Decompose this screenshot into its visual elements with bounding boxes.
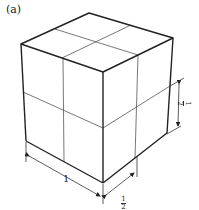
dimension-label-half-bottom: 1 2: [121, 186, 126, 210]
fraction-numerator: 1: [121, 196, 125, 203]
dimension-label-half-right: 1 2: [176, 101, 199, 106]
fraction-denominator: 2: [176, 101, 183, 105]
fraction-numerator: 1: [184, 101, 191, 105]
right-face-grid: [103, 55, 170, 158]
cube-diagram: [0, 0, 199, 210]
top-face-grid: [55, 25, 138, 58]
fraction-denominator: 2: [121, 204, 125, 210]
dimension-label-one: 1: [63, 173, 69, 184]
panel-label: (a): [6, 3, 21, 16]
dimension-lines: [26, 78, 184, 204]
